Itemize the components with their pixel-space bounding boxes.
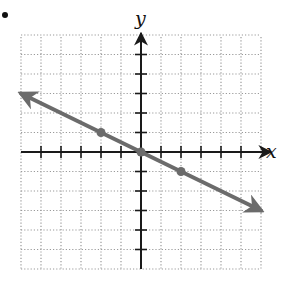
coordinate-plane: x y — [0, 0, 289, 284]
axes — [21, 33, 271, 269]
x-axis-label: x — [266, 140, 277, 162]
y-axis-label: y — [134, 7, 146, 29]
